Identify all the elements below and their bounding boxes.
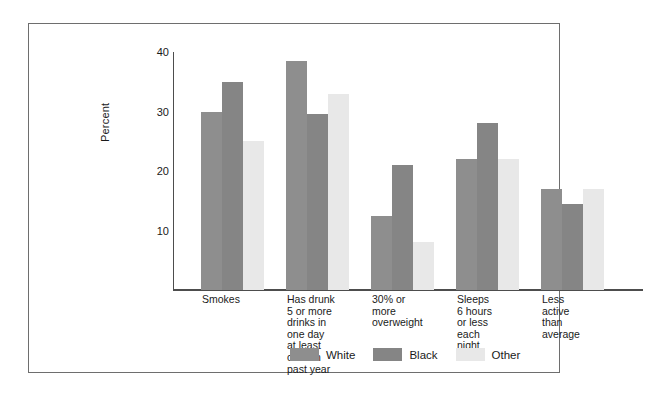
y-axis-tick-labels: 40302010 <box>129 38 169 298</box>
chart-legend: WhiteBlackOther <box>290 348 520 361</box>
legend-swatch-icon-other <box>456 348 485 361</box>
bar-group-2 <box>286 52 349 290</box>
legend-item-other: Other <box>456 348 521 361</box>
category-label-line: 30% or <box>372 294 453 306</box>
bar-black-3 <box>392 165 413 290</box>
bar-other-3 <box>413 242 434 290</box>
bar-other-2 <box>328 94 349 290</box>
legend-item-white: White <box>290 348 355 361</box>
bar-black-2 <box>307 114 328 290</box>
category-label-4: Sleeps6 hoursor lesseachnight <box>457 294 538 352</box>
legend-label-black: Black <box>409 349 437 361</box>
y-tick-label-20: 20 <box>139 166 169 177</box>
plot-area: Percent 40302010 SmokesHas drunk5 or mor… <box>115 38 577 298</box>
bars-layer <box>175 52 641 290</box>
legend-swatch-icon-white <box>290 348 319 361</box>
category-label-line: Less <box>542 294 623 306</box>
chart-figure-frame: Percent 40302010 SmokesHas drunk5 or mor… <box>28 23 560 373</box>
y-axis-title: Percent <box>99 103 111 142</box>
legend-item-black: Black <box>373 348 437 361</box>
category-label-line: past year <box>287 364 368 376</box>
bar-group-4 <box>456 52 519 290</box>
bar-white-2 <box>286 61 307 290</box>
category-label-3: 30% ormoreoverweight <box>372 294 453 329</box>
category-label-2: Has drunk5 or moredrinks inone dayat lea… <box>287 294 368 375</box>
bar-black-4 <box>477 123 498 290</box>
category-label-line: average <box>542 329 623 341</box>
y-tick-label-30: 30 <box>139 107 169 118</box>
bar-black-1 <box>222 82 243 290</box>
bar-other-5 <box>583 189 604 290</box>
bar-white-3 <box>371 216 392 290</box>
category-label-line: Smokes <box>202 294 283 306</box>
bar-group-3 <box>371 52 434 290</box>
bar-group-1 <box>201 52 264 290</box>
legend-swatch-icon-black <box>373 348 402 361</box>
category-label-line: Has drunk <box>287 294 368 306</box>
bar-group-5 <box>541 52 604 290</box>
y-tick-label-40: 40 <box>139 47 169 58</box>
legend-label-white: White <box>326 349 355 361</box>
bar-white-1 <box>201 112 222 291</box>
category-label-5: Lessactivethanaverage <box>542 294 623 340</box>
bar-other-1 <box>243 141 264 290</box>
bar-black-5 <box>562 204 583 290</box>
bar-white-4 <box>456 159 477 290</box>
category-label-line: Sleeps <box>457 294 538 306</box>
bar-white-5 <box>541 189 562 290</box>
legend-label-other: Other <box>492 349 521 361</box>
category-axis-labels: SmokesHas drunk5 or moredrinks inone day… <box>175 294 645 384</box>
y-axis-line <box>173 52 174 290</box>
bar-other-4 <box>498 159 519 290</box>
category-label-line: overweight <box>372 317 453 329</box>
y-tick-label-10: 10 <box>139 226 169 237</box>
category-label-1: Smokes <box>202 294 283 306</box>
